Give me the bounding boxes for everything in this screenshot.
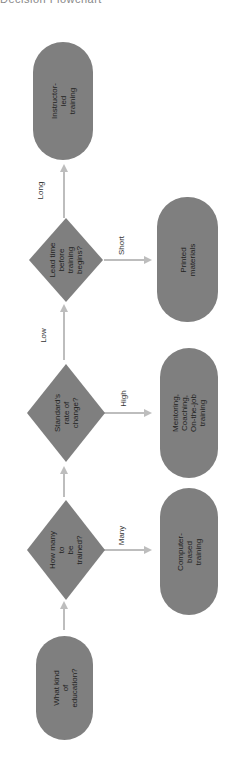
result-mentoring-coaching: Mentoring, Coaching, On-the-job training <box>160 348 218 478</box>
edge-label-high: High <box>119 390 128 406</box>
edge-label-low: Low <box>39 328 48 343</box>
edge-label-many: Many <box>117 526 126 546</box>
start-what-kind-of-education: What kind of education? <box>36 636 93 740</box>
result-printed-materials: Printed materials <box>157 197 218 322</box>
node-label: Instructor-led training <box>50 83 77 119</box>
decision-lead-time: Lead time before training begins? <box>29 218 103 302</box>
node-label: What kind of education? <box>51 668 78 707</box>
node-label: Printed materials <box>179 243 197 275</box>
node-label: How many to be trained? <box>48 531 84 570</box>
node-label: Standard's rate of change? <box>53 394 80 432</box>
edge-label-short: Short <box>117 236 126 255</box>
edge-label-long: Long <box>36 182 45 200</box>
node-label: Mentoring, Coaching, On-the-job training <box>171 394 207 432</box>
node-label: Computer- based training <box>176 533 203 571</box>
node-label: Lead time before training begins? <box>48 242 84 279</box>
decision-how-many: How many to be trained? <box>27 500 105 600</box>
result-instructor-led-training: Instructor-led training <box>33 42 93 160</box>
result-computer-based-training: Computer- based training <box>160 488 218 615</box>
decision-rate-of-change: Standard's rate of change? <box>27 364 105 462</box>
